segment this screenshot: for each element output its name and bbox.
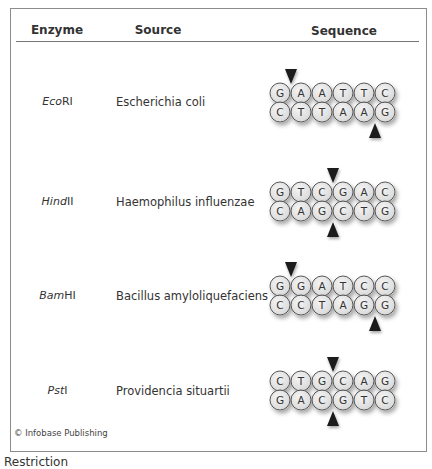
cut-site-arrow-up-icon	[369, 123, 381, 138]
header-enzyme: Enzyme	[31, 23, 83, 37]
nucleotide-top: C	[375, 182, 396, 203]
nucleotide-top: T	[333, 276, 354, 297]
nucleotide-bottom: T	[312, 295, 333, 316]
nucleotide-top: C	[312, 182, 333, 203]
nucleotide-top: G	[312, 371, 333, 392]
nucleotide-top: G	[291, 276, 312, 297]
nucleotide-top: T	[354, 83, 375, 104]
nucleotide-top: T	[291, 371, 312, 392]
nucleotide-top: T	[333, 83, 354, 104]
nucleotide-top: C	[375, 83, 396, 104]
nucleotide-bottom: T	[354, 201, 375, 222]
enzyme-name: EcoRI	[30, 95, 85, 108]
nucleotide-bottom: G	[270, 390, 291, 411]
nucleotide-bottom: G	[354, 295, 375, 316]
nucleotide-bottom: A	[354, 102, 375, 123]
nucleotide-bottom: C	[270, 102, 291, 123]
nucleotide-top: G	[270, 182, 291, 203]
nucleotide-top: G	[270, 276, 291, 297]
nucleotide-bottom: T	[312, 102, 333, 123]
enzyme-name: HindII	[30, 195, 85, 208]
nucleotide-bottom: C	[291, 295, 312, 316]
nucleotide-top: A	[312, 83, 333, 104]
nucleotide-top: C	[270, 371, 291, 392]
nucleotide-bottom: A	[291, 390, 312, 411]
enzyme-genus-abbrev: Bam	[39, 289, 64, 302]
nucleotide-top: T	[291, 182, 312, 203]
source-organism: Haemophilus influenzae	[116, 195, 254, 209]
enzyme-suffix: I	[64, 384, 67, 397]
nucleotide-bottom: C	[375, 390, 396, 411]
header-source: Source	[135, 23, 182, 37]
nucleotide-bottom: A	[291, 201, 312, 222]
nucleotide-bottom: G	[312, 201, 333, 222]
nucleotide-bottom: C	[312, 390, 333, 411]
source-organism: Providencia situartii	[116, 384, 230, 398]
cut-site-arrow-up-icon	[369, 316, 381, 331]
nucleotide-bottom: G	[375, 102, 396, 123]
nucleotide-top: A	[354, 182, 375, 203]
nucleotide-bottom: G	[375, 295, 396, 316]
nucleotide-top: A	[312, 276, 333, 297]
header-sequence: Sequence	[311, 24, 377, 38]
nucleotide-top: C	[354, 276, 375, 297]
enzyme-genus-abbrev: Hind	[42, 195, 67, 208]
cut-site-arrow-up-icon	[327, 222, 339, 237]
nucleotide-bottom: T	[354, 390, 375, 411]
source-organism: Escherichia coli	[116, 95, 205, 109]
figure-caption: Restriction	[4, 455, 68, 469]
nucleotide-bottom: C	[270, 201, 291, 222]
source-organism: Bacillus amyloliquefaciens	[116, 289, 268, 303]
nucleotide-top: G	[270, 83, 291, 104]
enzyme-suffix: RI	[62, 95, 73, 108]
cut-site-arrow-down-icon	[285, 69, 297, 84]
header-divider	[16, 41, 419, 42]
cut-site-arrow-down-icon	[327, 168, 339, 183]
cut-site-arrow-down-icon	[285, 262, 297, 277]
nucleotide-top: G	[375, 371, 396, 392]
cut-site-arrow-up-icon	[327, 411, 339, 426]
nucleotide-bottom: G	[375, 201, 396, 222]
enzyme-name: PstI	[30, 384, 85, 397]
enzyme-suffix: II	[67, 195, 74, 208]
nucleotide-bottom: A	[333, 102, 354, 123]
nucleotide-bottom: T	[291, 102, 312, 123]
nucleotide-top: C	[333, 371, 354, 392]
enzyme-name: BamHI	[30, 289, 85, 302]
nucleotide-bottom: C	[270, 295, 291, 316]
enzyme-suffix: HI	[64, 289, 76, 302]
nucleotide-top: A	[354, 371, 375, 392]
enzyme-genus-abbrev: Eco	[42, 95, 62, 108]
nucleotide-top: G	[333, 182, 354, 203]
enzyme-genus-abbrev: Pst	[48, 384, 65, 397]
copyright-notice: © Infobase Publishing	[14, 428, 108, 438]
nucleotide-bottom: C	[333, 201, 354, 222]
nucleotide-bottom: G	[333, 390, 354, 411]
nucleotide-top: A	[291, 83, 312, 104]
nucleotide-bottom: A	[333, 295, 354, 316]
nucleotide-top: C	[375, 276, 396, 297]
cut-site-arrow-down-icon	[327, 357, 339, 372]
